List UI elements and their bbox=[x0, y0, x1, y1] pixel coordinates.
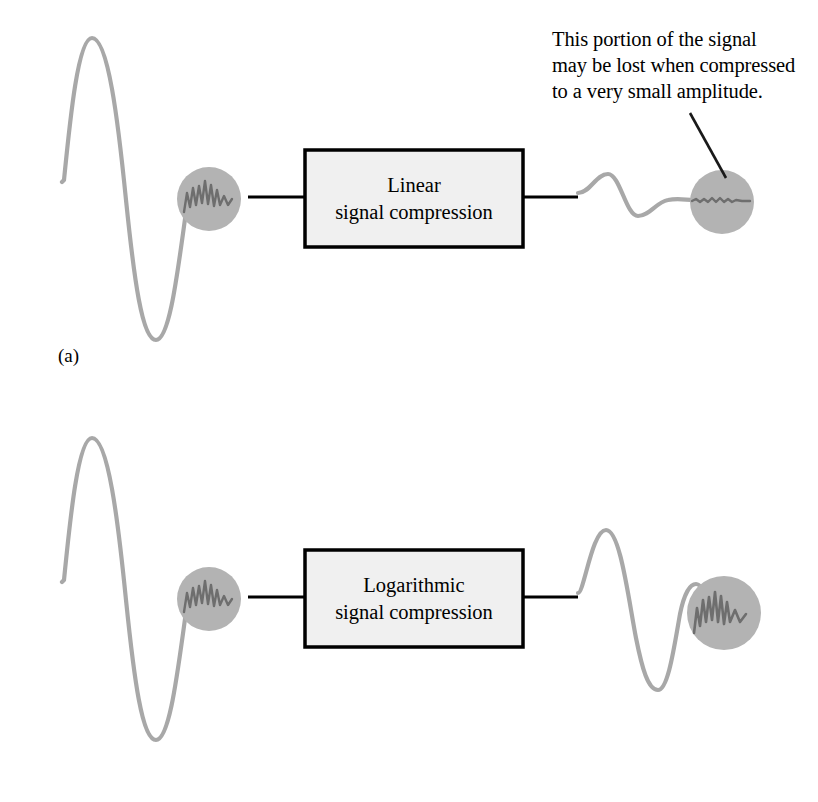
annotation-text-a: This portion of the signal may be lost w… bbox=[552, 26, 814, 104]
process-box-b bbox=[305, 550, 523, 647]
process-box-a-line1: Linear bbox=[387, 174, 441, 196]
output-waveform-a bbox=[578, 174, 694, 216]
leader-line-a bbox=[690, 113, 726, 178]
process-box-a bbox=[305, 150, 523, 247]
panel-b: Logarithmic signal compression Large vol… bbox=[0, 400, 818, 802]
signal-compression-figure: Linear signal compression This portion o… bbox=[0, 0, 818, 802]
panel-label-a: (a) bbox=[58, 345, 79, 367]
process-box-b-line2: signal compression bbox=[335, 601, 493, 624]
process-box-a-line2: signal compression bbox=[335, 201, 493, 224]
process-box-b-line1: Logarithmic bbox=[363, 574, 464, 597]
panel-b-graphic: Logarithmic signal compression bbox=[0, 400, 818, 802]
panel-a: Linear signal compression This portion o… bbox=[0, 0, 818, 400]
